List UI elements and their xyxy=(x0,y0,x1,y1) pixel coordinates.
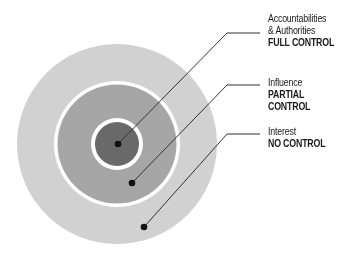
label-title: Influence xyxy=(268,77,345,89)
label-title-line1: Accountabilities xyxy=(268,13,334,25)
dot-middle xyxy=(129,180,136,187)
label-interest: Interest NO CONTROL xyxy=(268,126,333,150)
label-title: Interest xyxy=(268,126,325,138)
dot-outer xyxy=(141,224,148,231)
label-control-full: FULL CONTROL xyxy=(268,37,334,49)
dot-inner xyxy=(115,141,122,148)
label-control-none: NO CONTROL xyxy=(268,138,325,150)
label-influence: Influence PARTIAL CONTROL xyxy=(268,77,356,113)
label-accountabilities: Accountabilities & Authorities FULL CONT… xyxy=(268,13,343,49)
label-title-line2: & Authorities xyxy=(268,25,334,37)
label-control-partial: PARTIAL CONTROL xyxy=(268,89,345,113)
